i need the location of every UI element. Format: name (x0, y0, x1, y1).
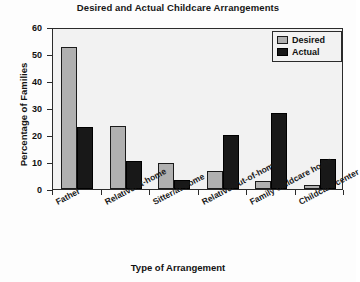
legend-label: Desired (292, 35, 325, 45)
bar-desired-1 (110, 126, 126, 189)
legend-swatch-icon (277, 36, 288, 44)
x-axis-title: Type of Arrangement (0, 262, 356, 273)
legend-swatch-icon (277, 48, 288, 56)
x-axis-tick-labels: FatherRelative/at-homeSitter/at-homeRela… (0, 190, 356, 260)
legend-label: Actual (292, 47, 320, 57)
legend-item: Actual (277, 46, 338, 57)
bar-desired-0 (61, 47, 77, 189)
bar-actual-0 (77, 127, 93, 189)
y-axis-title: Percentage of Families (18, 40, 29, 190)
chart-title: Desired and Actual Childcare Arrangement… (0, 2, 356, 13)
y-tick-label: 60 (8, 23, 42, 33)
chart-legend: DesiredActual (272, 31, 342, 62)
legend-item: Desired (277, 34, 338, 45)
